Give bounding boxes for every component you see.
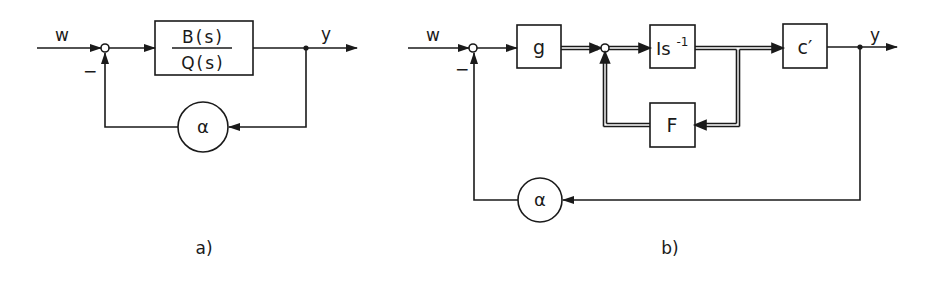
minus-sign-a: − [83,61,97,81]
integrator-label: Is -1 [656,35,688,59]
summing-junction-b1 [469,44,477,52]
feedback-line-a-left [105,53,178,127]
input-label-a: w [55,25,69,45]
caption-b: b) [661,238,678,258]
summing-junction-a [101,44,109,52]
gain-label-g: g [533,36,545,58]
minus-sign-b: − [455,59,469,79]
caption-a: a) [195,238,212,258]
state-feedback-label: F [667,114,678,136]
plant-numerator: B(s) [182,27,224,47]
block-diagrams: w y − B(s) Q(s) α a) [0,0,927,281]
alpha-label-b: α [534,189,546,210]
output-label-b: y [870,25,880,45]
output-label-a: y [321,24,331,44]
diagram-b [408,24,897,222]
output-block-label: c′ [798,36,813,58]
input-label-b: w [426,25,440,45]
alpha-label-a: α [197,116,209,137]
integrator-base: Is [656,38,671,59]
feedback-line-b-left [474,53,518,200]
integrator-exponent: -1 [676,35,688,49]
plant-denominator: Q(s) [181,53,225,73]
feedback-line-a-right [229,48,306,127]
